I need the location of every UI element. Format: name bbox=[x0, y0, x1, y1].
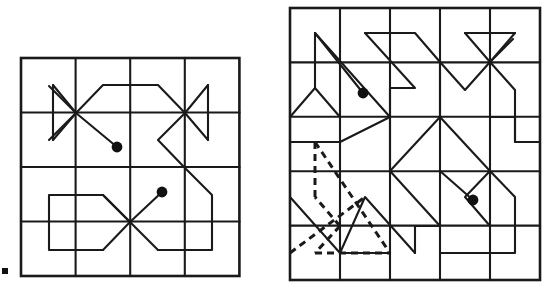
right-star-vee bbox=[440, 62, 490, 90]
left-lower-lower-ramp bbox=[103, 222, 130, 250]
endpoint-dot-upper-left bbox=[358, 88, 369, 99]
left-lower-dot-lead bbox=[130, 192, 162, 222]
right-zigzag-one-a bbox=[290, 33, 315, 117]
left-right-vee bbox=[158, 113, 185, 168]
right-mid-hook bbox=[490, 117, 515, 142]
right-star-wedge-left bbox=[465, 33, 490, 62]
right-lower-dot-lead bbox=[440, 171, 473, 200]
endpoint-dot-upper bbox=[112, 142, 123, 153]
left-lower-right-ramp bbox=[130, 222, 158, 250]
lattice-figure-svg bbox=[0, 0, 549, 295]
endpoint-dot-lower bbox=[157, 187, 168, 198]
figure-root bbox=[0, 0, 549, 295]
left-lower-cross-arm-nw bbox=[104, 196, 130, 222]
left-lattice-diagram bbox=[21, 58, 239, 276]
right-lattice-diagram bbox=[290, 8, 540, 280]
left-endpoint-dots bbox=[112, 142, 168, 198]
right-paths bbox=[290, 33, 540, 253]
left-margin-tick bbox=[2, 268, 8, 274]
endpoint-dot-lower-right bbox=[468, 195, 479, 206]
right-zigzag-one-c bbox=[315, 88, 340, 117]
left-upper-dot-lead bbox=[76, 113, 117, 147]
left-upper-right-wedge-bottom bbox=[185, 113, 208, 140]
dashed-arrow-upper bbox=[315, 197, 340, 226]
left-upper-right-wedge-top bbox=[185, 85, 208, 113]
right-star-arm-ne bbox=[490, 39, 513, 62]
